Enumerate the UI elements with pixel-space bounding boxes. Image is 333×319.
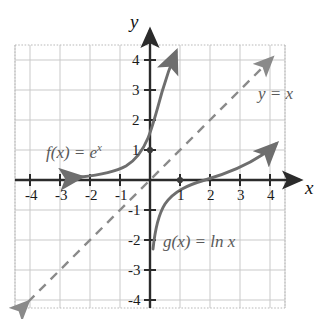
- xtick-label--1: -1: [115, 188, 128, 203]
- xtick-label-3: 3: [237, 188, 245, 203]
- ytick-label--2: -2: [128, 233, 141, 248]
- annotation-f-exponent: x: [97, 141, 102, 153]
- annotation-g-of-x: g(x) = ln x: [163, 233, 235, 250]
- ytick-label-3: 3: [132, 83, 140, 98]
- ytick-label-4: 4: [132, 53, 140, 68]
- ytick-label--3: -3: [128, 263, 141, 278]
- ytick-label--4: -4: [128, 293, 141, 308]
- x-axis-label: x: [305, 178, 313, 197]
- point-0-1: [147, 147, 153, 153]
- y-axis-label: y: [130, 12, 138, 31]
- ytick-label-2: 2: [132, 113, 140, 128]
- point-1-0: [177, 177, 183, 183]
- annotation-y-equals-x: y = x: [258, 85, 293, 102]
- xtick-label--3: -3: [55, 188, 68, 203]
- xtick-label--4: -4: [25, 188, 38, 203]
- graph-figure: -4 -3 -2 -1 1 2 3 4 4 3 2 1 -1 -2 -3 -4 …: [0, 0, 333, 319]
- xtick-label-4: 4: [267, 188, 275, 203]
- xtick-label-1: 1: [177, 188, 185, 203]
- annotation-f-text: f(x) = e: [46, 143, 97, 162]
- xtick-label-2: 2: [207, 188, 215, 203]
- ytick-label--1: -1: [128, 203, 141, 218]
- ytick-label-1: 1: [132, 143, 140, 158]
- xtick-label--2: -2: [85, 188, 98, 203]
- annotation-f-of-x: f(x) = ex: [46, 142, 102, 161]
